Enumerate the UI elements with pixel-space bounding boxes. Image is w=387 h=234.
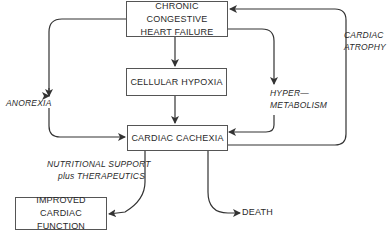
edge-label-cardiac-atrophy-2: ATROPHY xyxy=(344,42,386,53)
node-improved-cardiac-function: IMPROVED CARDIAC FUNCTION xyxy=(15,197,107,230)
node-cardiac-cachexia: CARDIAC CACHEXIA xyxy=(127,125,228,151)
node-label: CARDIAC CACHEXIA xyxy=(131,132,223,145)
node-chronic-congestive-heart-failure: CHRONIC CONGESTIVE HEART FAILURE xyxy=(126,1,228,37)
node-label: IMPROVED xyxy=(36,194,86,207)
node-label: CARDIAC FUNCTION xyxy=(16,207,106,233)
node-label: CHRONIC CONGESTIVE xyxy=(127,0,227,26)
edge-label-hypermetabolism-2: METABOLISM xyxy=(270,100,327,111)
edge-label-plus-therapeutics: plus THERAPEUTICS xyxy=(58,171,145,182)
node-cellular-hypoxia: CELLULAR HYPOXIA xyxy=(126,68,227,96)
node-label: HEART FAILURE xyxy=(141,26,214,39)
edge-label-cardiac-atrophy-1: CARDIAC xyxy=(344,30,384,41)
node-label: CELLULAR HYPOXIA xyxy=(130,76,222,89)
edge-label-hypermetabolism-1: HYPER— xyxy=(270,88,309,99)
node-death: DEATH xyxy=(242,207,273,218)
edge-label-nutritional-support: NUTRITIONAL SUPPORT xyxy=(47,159,151,170)
edge-label-anorexia: ANOREXIA xyxy=(6,98,52,109)
